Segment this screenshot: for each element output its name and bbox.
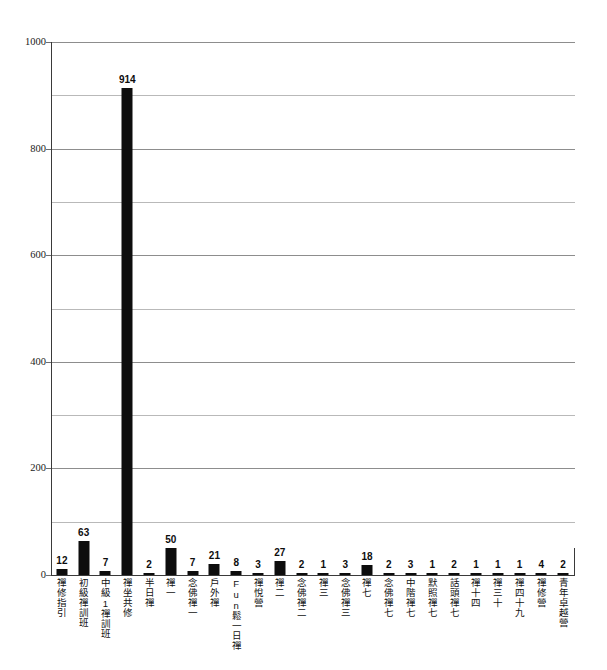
bar[interactable] [165, 548, 176, 575]
bar-value-label: 4 [539, 560, 545, 570]
bar[interactable] [187, 571, 198, 575]
bar[interactable] [449, 573, 460, 575]
bar-slot[interactable]: 2 [138, 42, 160, 575]
bar[interactable] [122, 88, 133, 575]
bar-slot[interactable]: 1 [487, 42, 509, 575]
bar-slot[interactable]: 1 [421, 42, 443, 575]
x-axis-label-slot: 禪三 [313, 578, 335, 670]
bar[interactable] [361, 565, 372, 575]
y-axis-tick-label: 400 [0, 357, 46, 368]
x-axis-label-slot: 禪四十九 [509, 578, 531, 670]
bar-value-label: 27 [274, 548, 285, 558]
x-axis-label-slot: 禪修營 [530, 578, 552, 670]
bar[interactable] [100, 571, 111, 575]
bar-value-label: 1 [430, 560, 436, 570]
bar-value-label: 1 [495, 560, 501, 570]
bar[interactable] [558, 573, 569, 575]
bar-slot[interactable]: 3 [247, 42, 269, 575]
x-axis-label-slot: Fun鬆一日禪 [225, 578, 247, 670]
bar-slot[interactable]: 12 [51, 42, 73, 575]
x-axis-tick-label: 戶外禪 [209, 578, 220, 608]
bar[interactable] [383, 573, 394, 575]
bar[interactable] [514, 573, 525, 575]
bar-slot[interactable]: 2 [291, 42, 313, 575]
bar[interactable] [209, 564, 220, 575]
bar-slot[interactable]: 2 [552, 42, 574, 575]
bar[interactable] [427, 573, 438, 575]
x-axis-tick-label: Fun鬆一日禪 [231, 578, 242, 651]
x-axis-tick-label: 禪坐共修 [122, 578, 133, 618]
bar-value-label: 914 [119, 75, 136, 85]
bar-slot[interactable]: 7 [95, 42, 117, 575]
bar[interactable] [253, 573, 264, 575]
y-axis-tick-label: 800 [0, 143, 46, 154]
x-axis-label-slot: 念佛禪七 [378, 578, 400, 670]
bar-slot[interactable]: 63 [73, 42, 95, 575]
bar-slot[interactable]: 8 [225, 42, 247, 575]
x-axis-label-slot: 中階禪七 [400, 578, 422, 670]
bar-value-label: 2 [299, 560, 305, 570]
bar-slot[interactable]: 3 [400, 42, 422, 575]
x-axis-label-slot: 半日禪 [138, 578, 160, 670]
bar[interactable] [78, 541, 89, 575]
x-axis-right-cap [574, 548, 575, 576]
x-axis-label-slot: 戶外禪 [204, 578, 226, 670]
bar-value-label: 2 [451, 560, 457, 570]
x-axis-tick-label: 念佛禪一 [187, 578, 198, 618]
bar-value-label: 1 [517, 560, 523, 570]
x-axis-tick-label: 禪二 [274, 578, 285, 598]
y-axis-tick-label: 0 [0, 570, 46, 581]
y-axis-tick-label: 600 [0, 250, 46, 261]
x-axis-label-slot: 念佛禪二 [291, 578, 313, 670]
bar[interactable] [492, 573, 503, 575]
x-axis-tick-label: 話頭禪七 [449, 578, 460, 618]
bar-value-label: 12 [56, 556, 67, 566]
bar[interactable] [274, 561, 285, 575]
x-axis-tick-label: 禪三十 [492, 578, 503, 608]
bar-slot[interactable]: 1 [313, 42, 335, 575]
x-axis-tick-label: 中階禪七 [405, 578, 416, 618]
x-axis-label-slot: 念佛禪三 [334, 578, 356, 670]
bar-slot[interactable]: 21 [204, 42, 226, 575]
bar[interactable] [340, 573, 351, 575]
bar-slot[interactable]: 3 [334, 42, 356, 575]
x-axis-tick-label: 青年卓越營 [558, 578, 569, 628]
x-axis-tick-label: 念佛禪七 [383, 578, 394, 618]
x-axis-label-slot: 話頭禪七 [443, 578, 465, 670]
bar-slot[interactable]: 2 [443, 42, 465, 575]
bar-slot[interactable]: 1 [509, 42, 531, 575]
bar[interactable] [231, 571, 242, 575]
bar[interactable] [318, 573, 329, 575]
bar[interactable] [405, 573, 416, 575]
bar-slot[interactable]: 50 [160, 42, 182, 575]
bar[interactable] [56, 569, 67, 575]
x-axis-label-slot: 念佛禪一 [182, 578, 204, 670]
bar-slot[interactable]: 7 [182, 42, 204, 575]
x-axis-tick-label: 念佛禪二 [296, 578, 307, 618]
x-axis-label-slot: 默照禪七 [421, 578, 443, 670]
bar-slot[interactable]: 18 [356, 42, 378, 575]
y-axis-tick-label: 1000 [0, 37, 46, 48]
bar-value-label: 7 [190, 558, 196, 568]
bar-slot[interactable]: 2 [378, 42, 400, 575]
bar[interactable] [296, 573, 307, 575]
bar-value-label: 3 [408, 560, 414, 570]
bar[interactable] [144, 573, 155, 575]
x-axis-tick-label: 初級禪訓班 [78, 578, 89, 628]
bar-slot[interactable]: 27 [269, 42, 291, 575]
bar-chart: 10008006004002000 1263791425072183272131… [0, 0, 607, 670]
x-axis-tick-label: 禪修營 [536, 578, 547, 608]
x-axis-tick-label: 禪十四 [470, 578, 481, 608]
x-axis-label-slot: 禪二 [269, 578, 291, 670]
bar[interactable] [470, 573, 481, 575]
bar-value-label: 2 [560, 560, 566, 570]
bar-slot[interactable]: 914 [116, 42, 138, 575]
bar[interactable] [536, 573, 547, 575]
bar-slot[interactable]: 4 [530, 42, 552, 575]
x-axis-tick-label: 禪悅營 [253, 578, 264, 608]
x-axis-tick-label: 半日禪 [144, 578, 155, 608]
bar-value-label: 1 [473, 560, 479, 570]
bar-slot[interactable]: 1 [465, 42, 487, 575]
x-axis-label-slot: 中級1禪訓班 [95, 578, 117, 670]
x-axis-label-slot: 禪坐共修 [116, 578, 138, 670]
